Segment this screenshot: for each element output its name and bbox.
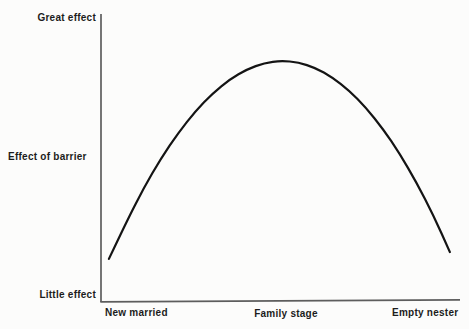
chart-figure: Great effect Effect of barrier Little ef… xyxy=(0,0,469,329)
x-tick-new-married: New married xyxy=(105,307,168,319)
x-axis-line xyxy=(100,300,460,302)
plot-area xyxy=(0,0,469,329)
x-tick-family-stage: Family stage xyxy=(254,308,318,320)
effect-curve xyxy=(109,61,450,259)
x-tick-empty-nester: Empty nester xyxy=(392,307,458,319)
